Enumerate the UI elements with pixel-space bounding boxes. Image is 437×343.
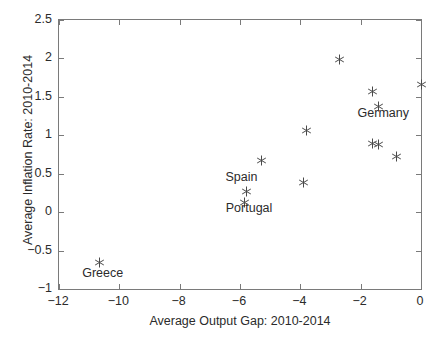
y-axis-tick [59,135,64,136]
y-axis-tick [416,289,421,290]
x-axis-tick [421,20,422,25]
plot-area: GreeceSpainPortugalGermany [58,19,422,290]
y-axis-tick [416,97,421,98]
y-tick-label: 2.5 [35,12,52,26]
point-annotation-greece: Greece [82,266,123,280]
x-axis-tick [240,284,241,289]
x-tick-label: −10 [108,294,129,308]
x-axis-title: Average Output Gap: 2010-2014 [58,314,422,328]
scatter-plot-figure: GreeceSpainPortugalGermany −1−0.500.511.… [0,0,437,343]
x-tick-label: 0 [417,294,424,308]
x-tick-label: −12 [47,294,68,308]
x-axis-tick [300,284,301,289]
y-axis-tick [59,58,64,59]
x-axis-tick [361,284,362,289]
y-axis-tick [416,212,421,213]
y-tick-label: 1 [45,127,52,141]
data-point-marker [256,155,267,166]
x-tick-label: −8 [172,294,186,308]
data-point-marker [298,177,309,188]
y-axis-tick [59,251,64,252]
x-axis-tick [300,20,301,25]
y-tick-label: 2 [45,50,52,64]
x-axis-tick [421,284,422,289]
x-tick-label: −2 [353,294,367,308]
y-axis-tick [416,251,421,252]
data-point-marker [391,151,402,162]
x-axis-tick [240,20,241,25]
y-axis-tick [416,174,421,175]
x-axis-tick [180,284,181,289]
y-axis-tick [59,97,64,98]
data-point-marker [373,139,384,150]
y-axis-tick [416,135,421,136]
y-tick-label: 0.5 [35,166,52,180]
y-tick-label: 0 [45,204,52,218]
y-tick-label: 1.5 [35,89,52,103]
y-axis-tick [59,174,64,175]
point-annotation-germany: Germany [358,106,409,120]
x-axis-tick [119,20,120,25]
y-axis-tick [416,58,421,59]
data-point-marker [241,186,252,197]
data-point-marker [416,79,427,90]
x-axis-tick [119,284,120,289]
point-annotation-spain: Spain [226,170,258,184]
x-axis-tick [180,20,181,25]
y-axis-tick [59,212,64,213]
data-point-marker [367,86,378,97]
x-tick-label: −4 [292,294,306,308]
y-axis-title: Average Inflation Rate: 2010-2014 [21,0,35,300]
y-axis-tick [59,289,64,290]
y-tick-label: −1 [38,281,52,295]
x-axis-tick [59,284,60,289]
data-point-marker [334,54,345,65]
x-axis-tick-labels: −12−10−8−6−4−20 [58,294,422,312]
point-annotation-portugal: Portugal [226,201,273,215]
x-axis-tick [361,20,362,25]
data-point-marker [367,138,378,149]
data-point-marker [301,125,312,136]
x-axis-tick [59,20,60,25]
x-tick-label: −6 [232,294,246,308]
